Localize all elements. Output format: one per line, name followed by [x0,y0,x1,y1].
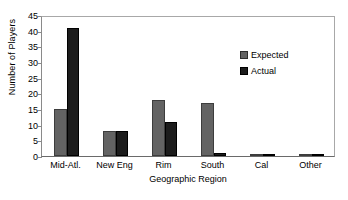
bar-south-actual [214,153,226,156]
y-tick-label: 10 [16,121,38,131]
x-axis-tick-labels: Mid-Atl.New EngRimSouthCalOther [41,160,335,174]
bar-cal-actual [263,154,275,156]
bar-group [152,17,177,156]
y-tick-label: 25 [16,74,38,84]
y-tick-label: 20 [16,89,38,99]
bar-new-eng-actual [116,131,128,156]
bar-rim-actual [165,122,177,156]
bar-rim-expected [152,100,164,156]
bar-group [299,17,324,156]
bar-group [201,17,226,156]
y-tick-label: 40 [16,27,38,37]
y-tick-label: 15 [16,105,38,115]
bar-mid-atl-expected [54,109,66,156]
x-axis-title: Geographic Region [41,174,335,184]
x-tick-label: South [188,160,237,171]
bar-group [54,17,79,156]
bar-cal-expected [250,154,262,156]
bar-other-expected [299,154,311,156]
y-axis-tick-labels: 454035302520151050 [16,11,38,163]
bars-layer [42,17,334,156]
legend: ExpectedActual [240,48,289,80]
legend-swatch-icon [240,51,248,59]
bar-other-actual [312,154,324,156]
x-tick-label: Rim [139,160,188,171]
legend-item-actual: Actual [240,64,289,77]
legend-label: Actual [251,66,276,76]
legend-label: Expected [251,50,289,60]
bar-new-eng-expected [103,131,115,156]
x-tick-label: Other [286,160,335,171]
plot-area [41,16,335,157]
bar-chart: Number of Players 454035302520151050 Mid… [0,0,348,200]
x-tick-label: New Eng [90,160,139,171]
y-tick-label: 5 [16,136,38,146]
y-tick-label: 35 [16,42,38,52]
bar-south-expected [201,103,213,156]
legend-swatch-icon [240,67,248,75]
y-tick-mark [38,157,42,158]
y-tick-label: 45 [16,11,38,21]
y-tick-label: 0 [16,152,38,162]
x-tick-label: Cal [237,160,286,171]
bar-group [103,17,128,156]
y-tick-label: 30 [16,58,38,68]
bar-mid-atl-actual [67,28,79,156]
bar-group [250,17,275,156]
legend-item-expected: Expected [240,48,289,61]
x-tick-label: Mid-Atl. [41,160,90,171]
